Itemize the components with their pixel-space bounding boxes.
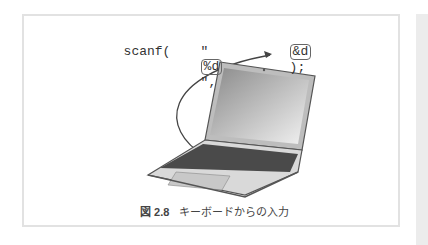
argument: &d ); [274,29,311,75]
scanf-code: scanf( [108,29,170,59]
quote-open: " [201,44,209,59]
format-specifier-box: %d [201,59,223,75]
figure-label: 図 2.8 [140,206,169,218]
figure-caption: 図 2.8キーボードからの入力 [140,203,289,219]
scanf-func: scanf( [124,44,171,59]
address-arg-box: &d [290,44,312,60]
figure-caption-text: キーボードからの入力 [179,206,289,219]
arrow-head-icon [264,51,272,58]
quote-close: ", [201,75,217,90]
format-string: " %d ", [185,29,222,90]
statement-end: ); [290,60,306,75]
